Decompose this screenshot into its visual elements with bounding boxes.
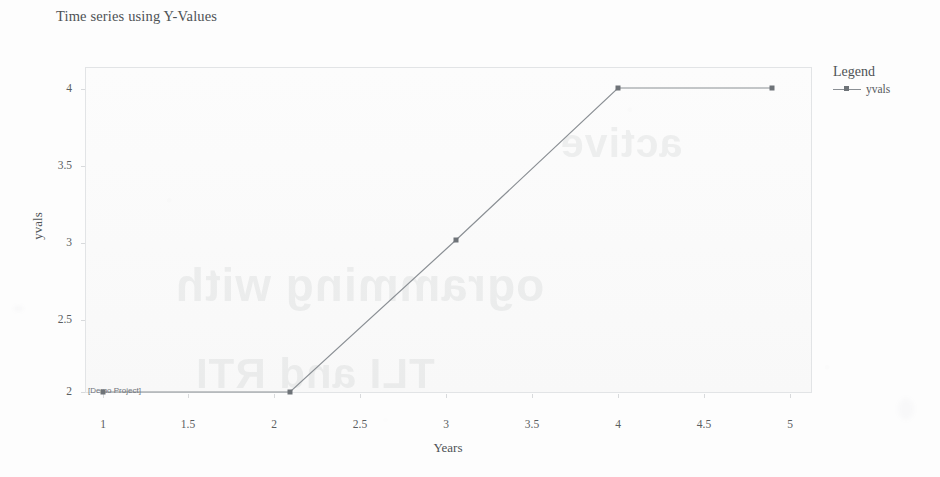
data-point-4[interactable]: [616, 86, 621, 91]
legend-title: Legend: [833, 64, 933, 80]
series-line-yvals: [103, 88, 772, 392]
chart-page: Time series using Y-Values active ogramm…: [0, 0, 940, 477]
data-point-annotation: [Demo Project]: [88, 386, 141, 395]
legend-item-yvals[interactable]: yvals: [833, 83, 933, 95]
legend: Legend yvals: [833, 64, 933, 95]
legend-line-marker-icon: [833, 85, 861, 94]
y-axis-title: yvals: [30, 204, 46, 248]
data-point-2[interactable]: [288, 390, 293, 395]
data-point-5[interactable]: [770, 86, 775, 91]
legend-item-label: yvals: [866, 83, 890, 95]
data-point-3[interactable]: [454, 238, 459, 243]
series-yvals: [0, 0, 940, 477]
x-axis-title: Years: [0, 440, 940, 456]
x-axis-title-text: Years: [433, 440, 462, 455]
